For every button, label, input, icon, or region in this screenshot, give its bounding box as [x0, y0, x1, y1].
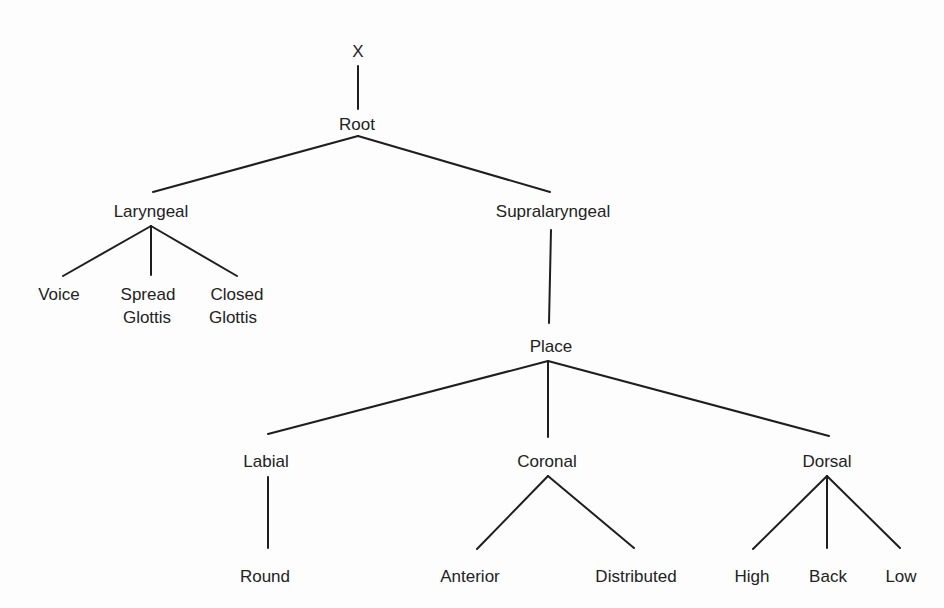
edge-place-dorsal: [548, 361, 829, 436]
edge-laryngeal-voice: [63, 226, 151, 276]
node-coronal: Coronal: [517, 452, 577, 471]
edge-coronal-distributed: [548, 476, 634, 548]
edges: [63, 66, 900, 549]
edge-laryngeal-closed-glottis: [151, 226, 237, 276]
feature-tree-diagram: X Root Laryngeal Supralaryngeal Voice Sp…: [0, 0, 944, 608]
node-x: X: [352, 42, 363, 61]
node-low: Low: [885, 567, 917, 586]
node-spread-glottis-line1: Spread: [121, 285, 176, 304]
node-laryngeal: Laryngeal: [114, 202, 189, 221]
nodes: X Root Laryngeal Supralaryngeal Voice Sp…: [38, 42, 917, 586]
edge-coronal-anterior: [477, 476, 548, 549]
node-labial: Labial: [243, 452, 288, 471]
node-voice: Voice: [38, 285, 80, 304]
edge-dorsal-low: [827, 476, 900, 548]
node-anterior: Anterior: [440, 567, 500, 586]
node-root: Root: [339, 115, 375, 134]
node-closed-glottis-line1: Closed: [211, 285, 264, 304]
node-closed-glottis-line2: Glottis: [209, 308, 257, 327]
edge-supralaryngeal-place: [549, 230, 551, 323]
edge-root-laryngeal: [153, 136, 358, 192]
node-back: Back: [809, 567, 847, 586]
node-supralaryngeal: Supralaryngeal: [496, 202, 610, 221]
node-round: Round: [240, 567, 290, 586]
edge-root-supralaryngeal: [358, 136, 550, 192]
node-high: High: [735, 567, 770, 586]
edge-dorsal-high: [753, 476, 827, 549]
edge-place-labial: [268, 361, 548, 434]
node-spread-glottis-line2: Glottis: [123, 308, 171, 327]
node-place: Place: [530, 337, 573, 356]
node-distributed: Distributed: [595, 567, 676, 586]
node-dorsal: Dorsal: [802, 452, 851, 471]
tree-canvas: X Root Laryngeal Supralaryngeal Voice Sp…: [0, 0, 944, 608]
